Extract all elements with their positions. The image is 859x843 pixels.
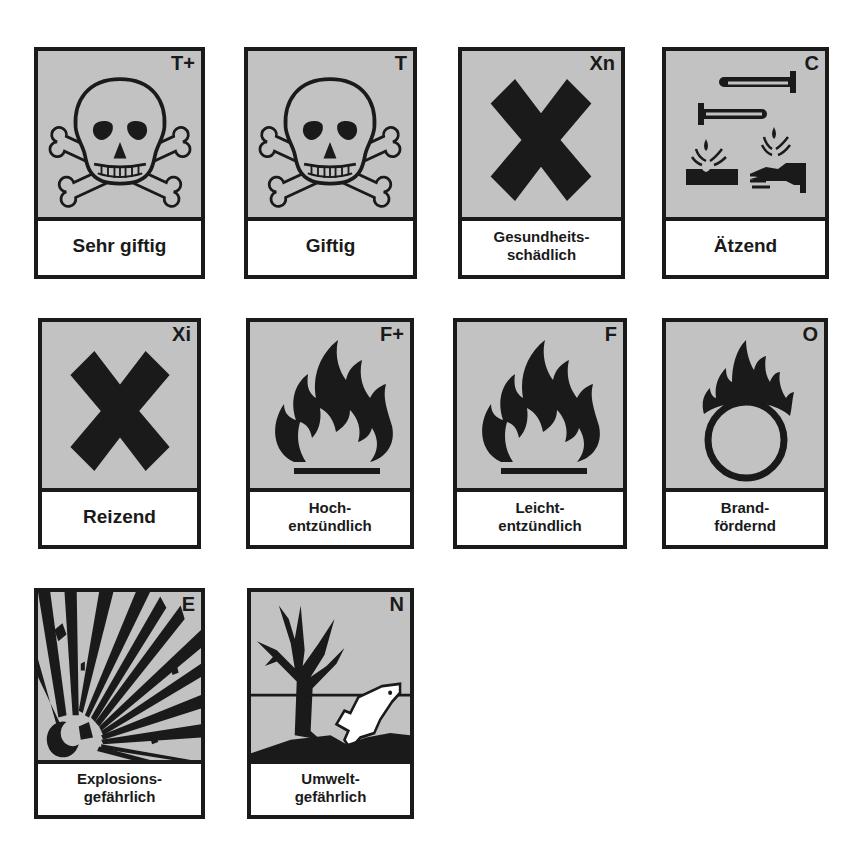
- hazard-card-extremely-flammable: F+ Hoch- entzündlich: [246, 318, 414, 549]
- pictogram-area: N: [251, 592, 410, 764]
- pictogram-area: F+: [250, 322, 410, 492]
- hazard-code: T: [395, 53, 407, 73]
- hazard-card-harmful: Xn Gesundheits- schädlich: [458, 47, 625, 279]
- pictogram-area: E: [38, 592, 201, 764]
- corrosive-icon: [666, 51, 825, 217]
- hazard-label-line2: entzündlich: [288, 517, 371, 535]
- hazard-label-line2: schädlich: [507, 246, 576, 264]
- hazard-label: Gesundheits- schädlich: [462, 217, 621, 275]
- hazard-card-highly-flammable: F Leicht- entzündlich: [453, 318, 627, 549]
- hazard-label-line2: entzündlich: [498, 517, 581, 535]
- hazard-code: F: [605, 324, 617, 344]
- hazard-label-line1: Hoch-: [309, 499, 352, 517]
- hazard-card-toxic: T Giftig: [244, 47, 417, 279]
- hazard-code: N: [390, 594, 404, 614]
- cross-x-icon: [462, 51, 621, 217]
- hazard-label: Hoch- entzündlich: [250, 488, 410, 545]
- dead-tree-fish-icon: [251, 592, 410, 760]
- pictogram-area: Xn: [462, 51, 621, 221]
- hazard-code: F+: [380, 324, 404, 344]
- skull-crossbones-icon: [38, 51, 201, 217]
- hazard-card-oxidizing: O Brand- fördernd: [662, 318, 828, 549]
- hazard-card-explosive: E Explosions- gefährlich: [34, 588, 205, 819]
- hazard-label-line1: Umwelt-: [301, 770, 359, 788]
- hazard-label-line1: Leicht-: [515, 499, 564, 517]
- hazard-code: Xi: [172, 324, 191, 344]
- hazard-label-line1: Explosions-: [77, 770, 162, 788]
- hazard-label-line2: gefährlich: [84, 788, 156, 806]
- hazard-code: C: [805, 53, 819, 73]
- skull-crossbones-icon: [248, 51, 413, 217]
- hazard-card-environment: N Umwelt- gefährlich: [247, 588, 414, 819]
- pictogram-area: F: [457, 322, 623, 492]
- hazard-label-line1: Brand-: [721, 499, 769, 517]
- hazard-label: Giftig: [248, 217, 413, 275]
- pictogram-area: C: [666, 51, 825, 221]
- exploding-bomb-icon: [38, 592, 201, 760]
- hazard-label-line1: Gesundheits-: [494, 228, 590, 246]
- hazard-label: Explosions- gefährlich: [38, 760, 201, 815]
- hazard-card-very-toxic: T+ Sehr giftig: [34, 47, 205, 279]
- pictogram-area: O: [666, 322, 824, 492]
- hazard-label: Brand- fördernd: [666, 488, 824, 545]
- hazard-code: E: [182, 594, 195, 614]
- hazard-code: T+: [171, 53, 195, 73]
- cross-x-icon: [42, 322, 197, 488]
- hazard-label-line2: fördernd: [714, 517, 776, 535]
- hazard-label: Leicht- entzündlich: [457, 488, 623, 545]
- flame-icon: [250, 322, 410, 488]
- hazard-label: Ätzend: [666, 217, 825, 275]
- hazard-label: Reizend: [42, 488, 197, 545]
- hazard-label: Umwelt- gefährlich: [251, 760, 410, 815]
- pictogram-area: T: [248, 51, 413, 221]
- hazard-label-line2: gefährlich: [295, 788, 367, 806]
- hazard-code: O: [802, 324, 818, 344]
- flame-over-circle-icon: [666, 322, 824, 488]
- hazard-card-irritant: Xi Reizend: [38, 318, 201, 549]
- hazard-label: Sehr giftig: [38, 217, 201, 275]
- flame-icon: [457, 322, 623, 488]
- hazard-card-corrosive: C Ätzend: [662, 47, 829, 279]
- pictogram-area: T+: [38, 51, 201, 221]
- pictogram-area: Xi: [42, 322, 197, 492]
- hazard-code: Xn: [589, 53, 615, 73]
